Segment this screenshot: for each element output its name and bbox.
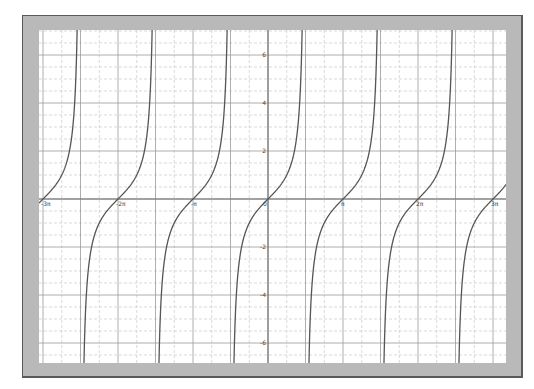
y-tick-label: -2 xyxy=(260,243,266,250)
tangent-plot: -3π-2π-π0π2π3π 642-2-4-6 xyxy=(39,30,506,363)
x-tick-label: -3π xyxy=(41,200,51,207)
x-tick-label: -2π xyxy=(116,200,126,207)
x-tick-label: 3π xyxy=(491,200,499,207)
y-tick-label: -4 xyxy=(260,291,266,298)
x-tick-label: 0 xyxy=(263,200,267,207)
x-tick-label: 2π xyxy=(416,200,424,207)
x-tick-label: π xyxy=(341,200,345,207)
y-tick-label: 2 xyxy=(262,147,266,154)
plot-background xyxy=(39,30,506,363)
y-tick-label: 4 xyxy=(262,99,266,106)
y-tick-label: 6 xyxy=(262,51,266,58)
x-tick-label: -π xyxy=(191,200,197,207)
y-tick-label: -6 xyxy=(260,339,266,346)
